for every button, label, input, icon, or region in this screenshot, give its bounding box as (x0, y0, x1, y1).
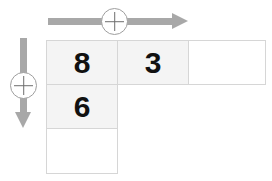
grid-cell-r1c0[interactable]: 6 (46, 84, 118, 129)
grid-cell-r2c0[interactable] (46, 128, 118, 174)
grid-cell-r0c0[interactable]: 8 (46, 40, 118, 85)
grid-cell-r0c2[interactable] (188, 40, 266, 85)
vertical-plus-circle-icon[interactable] (10, 72, 37, 99)
arrow-right-icon (172, 13, 188, 29)
arrow-down-icon (15, 112, 31, 128)
horizontal-plus-circle-icon[interactable] (101, 8, 128, 35)
grid-cell-r0c1[interactable]: 3 (117, 40, 189, 85)
puzzle-canvas: 8 3 6 (0, 0, 272, 181)
